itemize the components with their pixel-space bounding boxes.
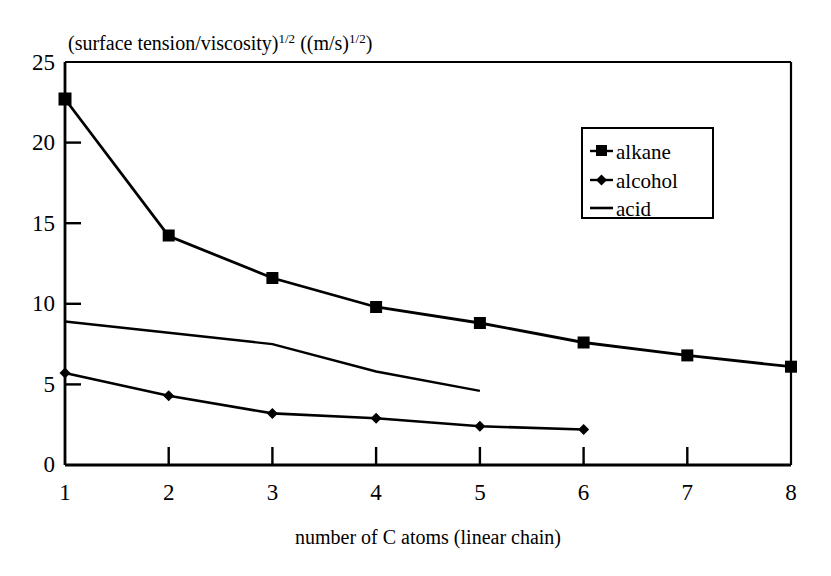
title-exponent-1: 1/2 — [279, 31, 296, 46]
title-exponent-2: 1/2 — [349, 31, 366, 46]
x-tick-label-4: 4 — [370, 480, 382, 505]
y-tick-labels: 0 5 10 15 20 25 — [32, 50, 55, 477]
y-tick-label-15: 15 — [32, 211, 55, 236]
x-tick-label-6: 6 — [578, 480, 590, 505]
plot-frame — [65, 62, 791, 465]
title-part-2: ((m/s) — [295, 32, 349, 55]
legend-label-alkane: alkane — [616, 140, 671, 164]
y-tick-label-0: 0 — [44, 452, 56, 477]
title-part-1: (surface tension/viscosity) — [68, 32, 279, 55]
x-tick-label-1: 1 — [59, 480, 71, 505]
x-axis-ticks — [169, 447, 688, 465]
y-tick-label-25: 25 — [32, 50, 55, 75]
y-tick-label-10: 10 — [32, 291, 55, 316]
y-tick-label-20: 20 — [32, 130, 55, 155]
legend-label-alcohol: alcohol — [616, 169, 678, 193]
svg-text:(surface tension/viscosity)1/2: (surface tension/viscosity)1/2 ((m/s)1/2… — [68, 31, 372, 55]
x-tick-labels: 1 2 3 4 5 6 7 8 — [59, 480, 797, 505]
chart-figure: 0 5 10 15 20 25 1 2 3 4 5 6 7 8 (surface… — [0, 0, 831, 576]
x-tick-label-3: 3 — [267, 480, 279, 505]
chart-legend: alkane alcohol acid — [582, 128, 713, 221]
y-tick-label-5: 5 — [44, 372, 56, 397]
x-tick-label-5: 5 — [474, 480, 486, 505]
series-alcohol — [60, 368, 590, 435]
x-axis-label: number of C atoms (linear chain) — [295, 526, 561, 549]
x-tick-label-7: 7 — [682, 480, 694, 505]
chart-svg: 0 5 10 15 20 25 1 2 3 4 5 6 7 8 (surface… — [0, 0, 831, 576]
series-acid — [65, 322, 480, 391]
legend-label-acid: acid — [616, 197, 651, 221]
x-tick-label-8: 8 — [785, 480, 797, 505]
x-tick-label-2: 2 — [163, 480, 175, 505]
chart-title: (surface tension/viscosity)1/2 ((m/s)1/2… — [68, 31, 372, 55]
square-marker-icon — [596, 145, 607, 156]
title-part-3: ) — [366, 32, 373, 55]
alcohol-markers — [60, 368, 590, 435]
